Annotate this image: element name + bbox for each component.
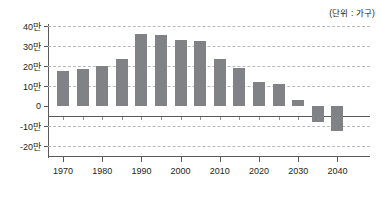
y-axis-tick: [44, 86, 48, 87]
bar: [233, 68, 245, 106]
y-axis-line: [48, 24, 49, 158]
bar: [292, 100, 304, 106]
x-axis-major-tick: [181, 157, 182, 162]
y-axis-tick: [44, 146, 48, 147]
bar: [96, 66, 108, 106]
plot-area: 40만30만20만10만0-10만-20만1970198019902000201…: [48, 26, 370, 156]
bar: [155, 35, 167, 106]
x-axis-major-tick: [63, 157, 64, 162]
bar: [253, 82, 265, 106]
y-axis-tick: [44, 126, 48, 127]
bar: [273, 84, 285, 106]
bar: [194, 41, 206, 106]
x-axis-minor-tick: [83, 117, 84, 120]
gridline: [48, 46, 370, 47]
y-axis-tick: [44, 46, 48, 47]
y-axis-label: -20만: [20, 140, 41, 153]
x-axis-minor-tick: [161, 117, 162, 120]
gridline: [48, 26, 370, 27]
y-axis-tick: [44, 66, 48, 67]
x-axis-minor-tick: [337, 117, 338, 120]
x-axis-minor-tick: [298, 117, 299, 120]
x-axis-label: 2000: [171, 166, 191, 176]
x-axis-major-tick: [259, 157, 260, 162]
x-axis-label: 2020: [249, 166, 269, 176]
x-axis-major-tick: [298, 157, 299, 162]
y-axis-label: 20만: [23, 60, 41, 73]
x-axis-minor-tick: [239, 117, 240, 120]
y-axis-label: 40만: [23, 20, 41, 33]
x-axis-minor-tick: [220, 117, 221, 120]
bar: [57, 71, 69, 106]
bar: [135, 34, 147, 106]
x-axis-major-tick: [337, 157, 338, 162]
y-axis-label: 0: [36, 101, 41, 111]
x-axis-minor-tick: [102, 117, 103, 120]
x-axis-label: 2010: [210, 166, 230, 176]
x-axis-scale-line: [48, 156, 370, 157]
x-axis-minor-tick: [122, 117, 123, 120]
bar: [77, 69, 89, 106]
x-axis-label: 1990: [131, 166, 151, 176]
bar: [214, 59, 226, 106]
y-axis-tick: [44, 106, 48, 107]
unit-caption: (단위 : 가구): [329, 6, 375, 18]
bar: [116, 59, 128, 106]
x-axis-minor-tick: [279, 117, 280, 120]
x-axis-label: 2030: [288, 166, 308, 176]
y-axis-label: 30만: [23, 40, 41, 53]
x-axis-minor-tick: [181, 117, 182, 120]
x-axis-label: 1970: [53, 166, 73, 176]
x-axis-label: 1980: [92, 166, 112, 176]
bar: [175, 40, 187, 106]
y-axis-tick: [44, 26, 48, 27]
x-axis-label: 2040: [327, 166, 347, 176]
x-axis-minor-tick: [63, 117, 64, 120]
x-axis-minor-tick: [318, 117, 319, 120]
gridline: [48, 126, 370, 127]
x-axis-major-tick: [141, 157, 142, 162]
x-axis-major-tick: [102, 157, 103, 162]
x-axis-minor-tick: [200, 117, 201, 120]
x-axis-minor-tick: [141, 117, 142, 120]
x-axis-minor-tick: [259, 117, 260, 120]
gridline: [48, 146, 370, 147]
x-axis-major-tick: [220, 157, 221, 162]
bar-chart: (단위 : 가구) 40만30만20만10만0-10만-20만197019801…: [0, 0, 381, 200]
y-axis-label: -10만: [20, 120, 41, 133]
y-axis-label: 10만: [23, 80, 41, 93]
